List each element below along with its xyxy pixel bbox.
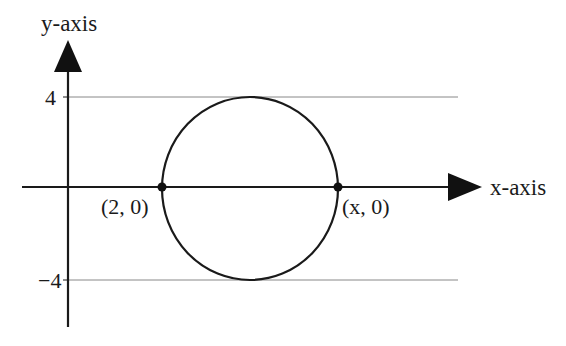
x-axis-label: x-axis (490, 176, 546, 199)
tick-label-neg4: −4 (38, 270, 61, 292)
y-axis-arrow-icon (54, 40, 82, 72)
point-x-0 (334, 183, 343, 192)
point-2-0 (158, 183, 167, 192)
circle (162, 97, 338, 280)
x-axis-arrow-icon (448, 173, 482, 201)
point-label-2-0: (2, 0) (101, 196, 149, 218)
tick-label-4: 4 (45, 87, 56, 109)
diagram-canvas (0, 0, 566, 346)
y-axis-label: y-axis (41, 12, 97, 35)
point-label-x-0: (x, 0) (342, 196, 390, 218)
